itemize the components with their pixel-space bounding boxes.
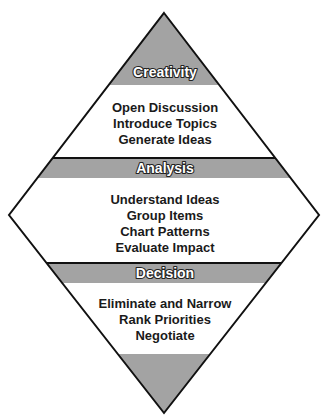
analysis-item: Evaluate Impact xyxy=(116,240,216,255)
bottom-band xyxy=(0,354,329,416)
decision-item: Negotiate xyxy=(135,328,194,343)
analysis-item: Understand Ideas xyxy=(110,192,219,207)
stage-title-analysis: Analysis xyxy=(136,160,194,176)
creativity-item: Introduce Topics xyxy=(113,116,217,131)
stage-title-decision: Decision xyxy=(136,265,194,281)
decision-item: Eliminate and Narrow xyxy=(99,296,233,311)
stage-title-creativity: Creativity xyxy=(133,64,197,80)
decision-diamond-diagram: Creativity Open Discussion Introduce Top… xyxy=(0,0,329,416)
decision-item: Rank Priorities xyxy=(119,312,211,327)
analysis-item: Group Items xyxy=(127,208,204,223)
analysis-item: Chart Patterns xyxy=(120,224,210,239)
creativity-item: Open Discussion xyxy=(112,100,218,115)
creativity-item: Generate Ideas xyxy=(118,132,211,147)
